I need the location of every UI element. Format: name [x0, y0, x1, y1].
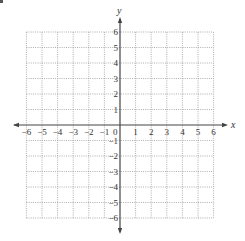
x-axis-left-arrow-icon: [13, 123, 19, 127]
x-tick-label: 5: [196, 127, 201, 137]
x-axis-right-arrow-icon: [222, 123, 228, 127]
y-tick-label: 6: [114, 27, 119, 37]
y-tick-label: −4: [108, 182, 118, 192]
x-tick-label: −2: [84, 127, 94, 137]
y-axis-label: y: [116, 5, 122, 16]
x-axis-label: x: [230, 119, 236, 130]
x-tick-label: −4: [53, 127, 63, 137]
x-tick-label: −3: [68, 127, 78, 137]
y-axis-down-arrow-icon: [118, 228, 122, 234]
y-tick-label: −2: [108, 151, 118, 161]
y-tick-label: 5: [114, 43, 119, 53]
y-tick-label: −1: [108, 136, 118, 146]
x-tick-label: −5: [37, 127, 47, 137]
y-axis-up-arrow-icon: [118, 17, 122, 23]
origin-label: 0: [113, 127, 118, 137]
y-tick-label: −5: [108, 198, 118, 208]
y-tick-label: −6: [108, 213, 118, 223]
axes: [13, 17, 228, 234]
y-tick-label: 3: [114, 74, 119, 84]
x-tick-label: 3: [165, 127, 170, 137]
y-tick-label: 1: [114, 105, 119, 115]
coordinate-plane: −6−5−4−3−2−1123456 654321−1−2−3−4−5−6 x …: [0, 0, 245, 241]
x-tick-label: 1: [133, 127, 138, 137]
x-tick-label: −6: [22, 127, 32, 137]
y-tick-label: −3: [108, 167, 118, 177]
y-tick-label: 2: [114, 89, 119, 99]
x-tick-label: 4: [180, 127, 185, 137]
x-tick-labels: −6−5−4−3−2−1123456: [22, 127, 217, 137]
x-tick-label: 6: [211, 127, 216, 137]
x-tick-label: 2: [149, 127, 154, 137]
y-tick-label: 4: [114, 58, 119, 68]
